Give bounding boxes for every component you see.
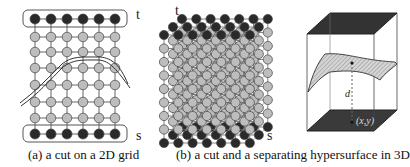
grid-node: [188, 44, 197, 53]
terminal-node: [46, 129, 56, 139]
grid-node: [110, 80, 120, 90]
sink-label-b: t: [175, 3, 179, 19]
terminal-node: [254, 22, 263, 31]
grid-node: [263, 82, 272, 91]
grid-node: [202, 125, 211, 134]
grid-node: [188, 71, 197, 80]
grid-node: [174, 44, 183, 53]
grid-node: [46, 97, 56, 107]
grid-node: [217, 71, 226, 80]
grid-node: [231, 44, 240, 53]
source-label-b: s: [267, 128, 272, 144]
terminal-node: [110, 14, 120, 24]
terminal-node: [254, 130, 263, 139]
grid-node: [46, 32, 56, 42]
grid-node: [78, 63, 88, 73]
grid-node: [174, 125, 183, 134]
grid-node: [110, 47, 120, 57]
terminal-node: [226, 22, 235, 31]
base-point: [350, 120, 353, 123]
terminal-node: [168, 22, 177, 31]
grid-node: [94, 80, 104, 90]
terminal-node: [188, 30, 197, 39]
grid-node: [94, 32, 104, 42]
terminal-node: [174, 30, 183, 39]
grid-node: [78, 32, 88, 42]
terminal-node: [94, 14, 104, 24]
grid-node: [202, 44, 211, 53]
grid-node: [231, 57, 240, 66]
top-plate: [307, 13, 397, 34]
terminal-node: [30, 14, 40, 24]
terminal-node: [249, 14, 258, 23]
terminal-node: [211, 22, 220, 31]
grid-node: [30, 97, 40, 107]
point-label: (x,y): [356, 115, 374, 126]
grid-node: [254, 90, 263, 99]
terminal-node: [78, 129, 88, 139]
panel-b-3d-grid: [159, 14, 272, 147]
grid-node: [30, 113, 40, 123]
grid-node: [188, 111, 197, 120]
grid-node: [94, 63, 104, 73]
terminal-node: [78, 14, 88, 24]
distance-label: d: [345, 88, 350, 99]
terminal-node: [94, 129, 104, 139]
grid-node: [159, 57, 168, 66]
grid-node: [263, 28, 272, 37]
grid-node: [202, 98, 211, 107]
grid-node: [263, 109, 272, 118]
grid-node: [254, 103, 263, 112]
grid-node: [62, 113, 72, 123]
terminal-node: [231, 30, 240, 39]
sink-label-a: t: [136, 7, 140, 23]
terminal-node: [240, 22, 249, 31]
grid-node: [78, 113, 88, 123]
grid-node: [254, 76, 263, 85]
grid-node: [174, 111, 183, 120]
grid-node: [94, 47, 104, 57]
grid-node: [30, 63, 40, 73]
grid-node: [263, 55, 272, 64]
grid-node: [245, 84, 254, 93]
grid-node: [188, 125, 197, 134]
grid-node: [30, 32, 40, 42]
grid-node: [231, 125, 240, 134]
grid-node: [174, 57, 183, 66]
grid-node: [174, 71, 183, 80]
grid-node: [231, 98, 240, 107]
grid-node: [188, 98, 197, 107]
grid-node: [245, 98, 254, 107]
grid-2d: [30, 14, 120, 139]
grid-node: [263, 68, 272, 77]
grid-node: [217, 84, 226, 93]
terminal-node: [202, 30, 211, 39]
grid-node: [245, 57, 254, 66]
grid-node: [254, 36, 263, 45]
terminal-node: [263, 14, 272, 23]
terminal-node: [206, 14, 215, 23]
terminal-node: [30, 129, 40, 139]
terminal-node: [183, 22, 192, 31]
grid-node: [254, 63, 263, 72]
grid-node: [110, 63, 120, 73]
grid-node: [174, 98, 183, 107]
terminal-node: [159, 30, 168, 39]
grid-node: [202, 111, 211, 120]
grid-node: [62, 32, 72, 42]
terminal-node: [192, 14, 201, 23]
grid-node: [217, 125, 226, 134]
grid-node: [110, 97, 120, 107]
grid-node: [217, 98, 226, 107]
grid-node: [110, 113, 120, 123]
grid-node: [263, 95, 272, 104]
terminal-node: [235, 14, 244, 23]
grid-node: [231, 84, 240, 93]
grid-node: [159, 44, 168, 53]
grid-node: [78, 47, 88, 57]
grid-node: [217, 111, 226, 120]
surface-point: [350, 61, 353, 64]
grid-node: [217, 44, 226, 53]
panel-a-2d-grid: [20, 10, 130, 142]
